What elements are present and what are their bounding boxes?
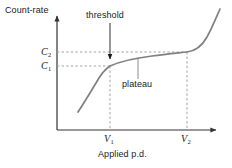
y-tick-label-c1: C1 — [41, 61, 51, 71]
y-axis-label: Count-rate — [5, 6, 49, 15]
axes-group — [57, 16, 216, 130]
geiger-characteristic-diagram: Count-rate Applied p.d. threshold platea… — [0, 0, 232, 168]
y-tick-c1-symbol: C — [41, 60, 48, 71]
x-tick-v2-subscript: 2 — [187, 138, 190, 145]
curve-group — [78, 9, 220, 112]
plateau-annotation-label: plateau — [122, 80, 152, 89]
y-tick-c1-subscript: 1 — [48, 65, 51, 72]
x-tick-v1-subscript: 1 — [110, 138, 113, 145]
x-axis-label: Applied p.d. — [98, 150, 147, 159]
count-rate-curve — [78, 9, 220, 112]
y-tick-c2-symbol: C — [41, 46, 48, 57]
x-tick-label-v1: V1 — [104, 134, 113, 144]
reference-lines-group — [57, 52, 187, 130]
threshold-annotation-label: threshold — [86, 11, 124, 20]
y-tick-label-c2: C2 — [41, 47, 51, 57]
diagram-canvas — [0, 0, 232, 168]
y-tick-c2-subscript: 2 — [48, 51, 51, 58]
callout-lines-group — [110, 23, 138, 79]
x-tick-label-v2: V2 — [181, 134, 190, 144]
